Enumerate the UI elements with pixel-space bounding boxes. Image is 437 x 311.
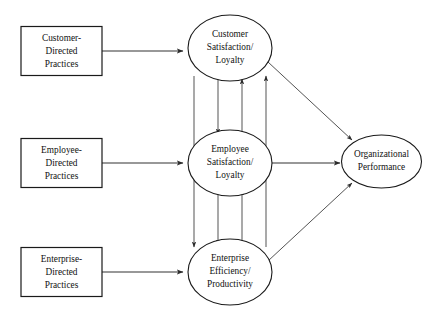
node-enterprise-efficiency-productivity[interactable]: Enterprise Efficiency/ Productivity — [188, 239, 272, 305]
customer-directed-practices-line-1: Customer- — [42, 33, 81, 43]
customer-satisfaction-loyalty-line-1: Customer — [212, 29, 249, 39]
node-organizational-performance[interactable]: Organizational Performance — [342, 135, 422, 188]
employee-satisfaction-loyalty-line-1: Employee — [211, 144, 249, 154]
edge-customer-satisfaction-to-organizational-performance — [268, 62, 352, 140]
node-customer-directed-practices[interactable]: Customer- Directed Practices — [21, 27, 102, 76]
enterprise-efficiency-productivity-line-1: Enterprise — [211, 253, 249, 263]
enterprise-directed-practices-line-3: Practices — [45, 280, 79, 290]
node-employee-directed-practices[interactable]: Employee- Directed Practices — [21, 139, 102, 188]
enterprise-directed-practices-line-2: Directed — [45, 267, 77, 277]
edge-enterprise-efficiency-to-organizational-performance — [268, 183, 352, 261]
customer-satisfaction-loyalty-line-3: Loyalty — [216, 55, 245, 65]
employee-directed-practices-line-1: Employee- — [41, 145, 82, 155]
employee-directed-practices-line-2: Directed — [45, 158, 77, 168]
organizational-performance-line-1: Organizational — [354, 149, 409, 159]
node-customer-satisfaction-loyalty[interactable]: Customer Satisfaction/ Loyalty — [188, 15, 272, 81]
process-model-diagram: Customer- Directed Practices Employee- D… — [0, 0, 437, 311]
enterprise-efficiency-productivity-line-2: Efficiency/ — [209, 266, 251, 276]
enterprise-efficiency-productivity-line-3: Productivity — [207, 279, 253, 289]
customer-directed-practices-line-2: Directed — [45, 46, 77, 56]
diagram-canvas: Customer- Directed Practices Employee- D… — [0, 0, 437, 311]
employee-directed-practices-line-3: Practices — [45, 171, 79, 181]
node-enterprise-directed-practices[interactable]: Enterprise- Directed Practices — [21, 248, 102, 297]
customer-directed-practices-line-3: Practices — [45, 59, 79, 69]
employee-satisfaction-loyalty-line-2: Satisfaction/ — [207, 157, 254, 167]
enterprise-directed-practices-line-1: Enterprise- — [41, 254, 82, 264]
customer-satisfaction-loyalty-line-2: Satisfaction/ — [207, 42, 254, 52]
organizational-performance-line-2: Performance — [358, 162, 406, 172]
employee-satisfaction-loyalty-line-3: Loyalty — [216, 170, 245, 180]
node-employee-satisfaction-loyalty[interactable]: Employee Satisfaction/ Loyalty — [188, 130, 272, 196]
